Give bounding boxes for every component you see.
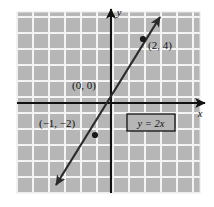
point-label-2-4: (2, 4): [148, 39, 172, 52]
data-point-marker-neg1-neg2: [92, 132, 98, 138]
x-axis-label: x: [197, 108, 203, 119]
y-axis-label: y: [116, 7, 122, 18]
point-label-0-0: (0, 0): [72, 79, 96, 92]
graph-canvas: (2, 4) (0, 0) (−1, −2) x y y = 2x: [0, 0, 214, 207]
equation-annotation-text: y = 2x: [137, 118, 165, 129]
point-label-neg1-neg2: (−1, −2): [39, 117, 76, 130]
equation-annotation-box: y = 2x: [127, 114, 175, 131]
coordinate-plane-figure: (2, 4) (0, 0) (−1, −2) x y y = 2x: [0, 0, 214, 207]
data-point-marker-2-4: [140, 36, 146, 42]
